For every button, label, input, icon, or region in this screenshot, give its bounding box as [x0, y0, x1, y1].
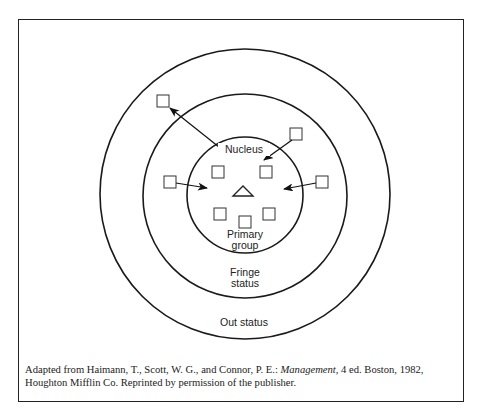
member-square-outer-left [164, 176, 176, 188]
member-square-outer-upperright [290, 128, 302, 140]
group-status-diagram: Nucleus Primary group Fringe status Out … [0, 0, 482, 420]
caption-line2: Houghton Mifflin Co. Reprinted by permis… [25, 377, 296, 388]
member-square-inner [260, 166, 272, 178]
member-square-outer-right [316, 176, 328, 188]
caption-title: Management, [280, 364, 338, 375]
label-out-status: Out status [220, 316, 268, 328]
member-square-inner [239, 216, 251, 228]
caption-suffix: 4 ed. Boston, 1982, [338, 364, 423, 375]
arrow-outward [170, 108, 224, 151]
arrow-inward-right [284, 183, 316, 189]
arrow-inward-left [176, 183, 207, 188]
member-square-outer-topleft [157, 95, 169, 107]
label-fringe-status-line2: status [231, 277, 259, 289]
label-primary-group-line2: group [232, 239, 259, 251]
member-square-inner [263, 208, 275, 220]
figure-caption: Adapted from Haimann, T., Scott, W. G., … [25, 364, 465, 389]
label-nucleus: Nucleus [225, 143, 263, 155]
nucleus-triangle-icon [233, 186, 253, 196]
caption-prefix: Adapted from Haimann, T., Scott, W. G., … [25, 364, 280, 375]
member-square-inner [212, 166, 224, 178]
member-square-inner [214, 208, 226, 220]
